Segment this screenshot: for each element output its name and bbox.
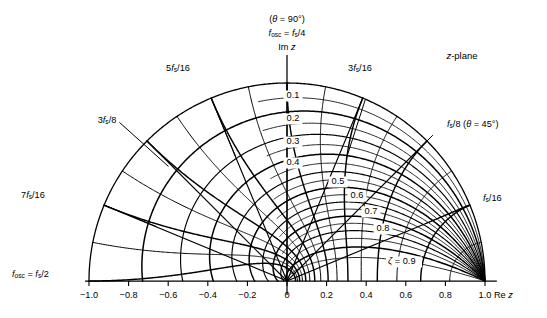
theta-90-annotation: (θ = 90°) [269,14,304,24]
zeta-label-0p4: 0.4 [287,157,300,167]
frequency-label-3fs16: 3fs/16 [348,63,372,73]
x-tick-label-0.2: 0.2 [320,290,333,300]
real-axis-label: Re z [494,290,513,300]
zeta-label-0p3: 0.3 [287,136,300,146]
frequency-label-7fs16: 7fs/16 [21,190,45,200]
z-plane-plot: 0.10.20.30.40.50.60.70.8ζ = 0.95fs/163fs… [0,0,547,318]
zeta-label-0p6: 0.6 [351,190,364,200]
x-tick-label--0.6: −0.6 [159,290,177,300]
x-tick-label--1.0: −1.0 [80,290,98,300]
x-tick-label-0.4: 0.4 [360,290,373,300]
plane-title: z-plane [445,50,477,61]
x-tick-label-0.6: 0.6 [399,290,412,300]
x-tick-label--0.8: −0.8 [120,290,138,300]
x-tick-label-0.8: 0.8 [439,290,452,300]
frequency-label-5fs16: 5fs/16 [166,63,190,73]
frequency-label-fs8-45deg: fs/8 (θ = 45°) [447,119,499,129]
imaginary-axis-label: Im z [278,42,296,52]
zeta-label-0p9: ζ = 0.9 [388,256,416,266]
x-tick-label--0.2: −0.2 [238,290,256,300]
zeta-label-0p1: 0.1 [287,90,300,100]
x-tick-label-1.0: 1.0 [479,290,492,300]
figure-canvas: 0.10.20.30.40.50.60.70.8ζ = 0.95fs/163fs… [0,0,547,318]
zeta-label-0p5: 0.5 [332,176,345,186]
zeta-label-0p8: 0.8 [377,223,390,233]
x-tick-label-0: 0 [284,290,289,300]
x-tick-label--0.4: −0.4 [199,290,217,300]
zeta-label-0p7: 0.7 [365,206,378,216]
zeta-label-0p2: 0.2 [287,113,300,123]
